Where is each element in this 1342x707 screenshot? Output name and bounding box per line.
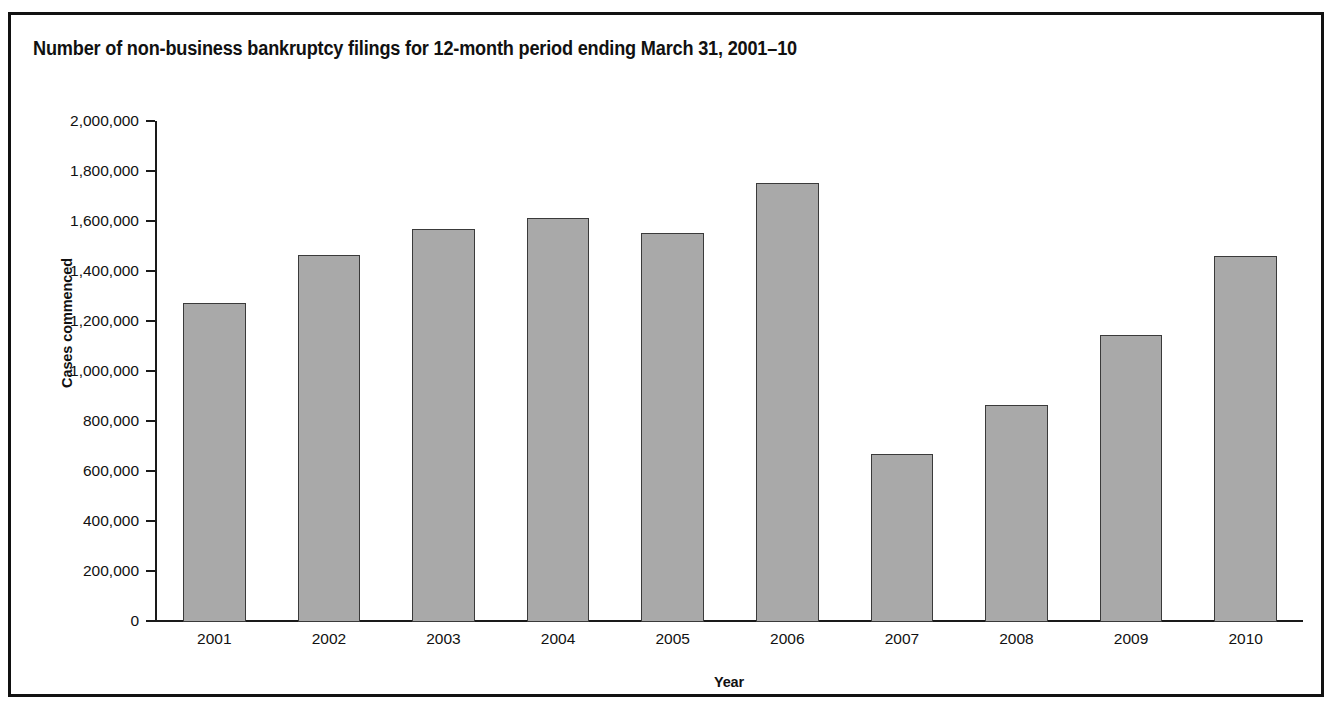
- bar-slot: [183, 121, 245, 622]
- x-axis-tick-label: 2004: [501, 630, 616, 648]
- y-axis-tick-label: 1,400,000: [19, 262, 139, 280]
- y-axis-tick-label: 1,200,000: [19, 312, 139, 330]
- y-axis-tick-label: 400,000: [19, 512, 139, 530]
- bar: [412, 229, 474, 622]
- y-axis-tick-label: 800,000: [19, 412, 139, 430]
- x-axis-tick-label: 2010: [1188, 630, 1303, 648]
- bar: [298, 255, 360, 622]
- y-axis-tick-label: 1,000,000: [19, 362, 139, 380]
- plot-area: 2,000,0001,800,0001,600,0001,400,0001,20…: [11, 15, 1327, 700]
- bar: [756, 183, 818, 622]
- bar-slot: [1100, 121, 1162, 622]
- bar-slot: [412, 121, 474, 622]
- y-axis-tick-label: 1,800,000: [19, 162, 139, 180]
- y-axis-tick: [146, 520, 155, 522]
- y-axis-tick: [146, 420, 155, 422]
- bar: [985, 405, 1047, 622]
- y-axis-tick: [146, 320, 155, 322]
- bar: [641, 233, 703, 622]
- y-axis-tick-label: 0: [19, 612, 139, 630]
- x-axis-tick-label: 2008: [959, 630, 1074, 648]
- bar-slot: [985, 121, 1047, 622]
- y-axis-tick: [146, 470, 155, 472]
- y-axis-tick-label: 200,000: [19, 562, 139, 580]
- x-axis-tick-label: 2005: [615, 630, 730, 648]
- bar: [527, 218, 589, 623]
- y-axis-tick: [146, 570, 155, 572]
- bar-slot: [298, 121, 360, 622]
- x-axis-tick-label: 2001: [157, 630, 272, 648]
- bar-slot: [871, 121, 933, 622]
- y-axis-tick: [146, 620, 155, 622]
- x-axis-tick-label: 2007: [845, 630, 960, 648]
- bar-slot: [641, 121, 703, 622]
- y-axis-tick-label: 2,000,000: [19, 112, 139, 130]
- x-axis-tick-label: 2009: [1074, 630, 1189, 648]
- bar: [871, 454, 933, 622]
- chart-figure: Number of non-business bankruptcy filing…: [8, 12, 1324, 697]
- bar: [1214, 256, 1276, 622]
- y-axis-tick: [146, 370, 155, 372]
- x-axis-title: Year: [155, 674, 1303, 690]
- y-axis-tick: [146, 120, 155, 122]
- bar: [1100, 335, 1162, 622]
- y-axis-tick: [146, 170, 155, 172]
- y-axis-title: Cases commenced: [59, 223, 75, 423]
- x-axis-tick-label: 2006: [730, 630, 845, 648]
- x-axis-tick-label: 2002: [272, 630, 387, 648]
- y-axis-tick-label: 1,600,000: [19, 212, 139, 230]
- y-axis-tick-label: 600,000: [19, 462, 139, 480]
- x-axis-tick-label: 2003: [386, 630, 501, 648]
- bar-series: [157, 121, 1303, 622]
- bar-slot: [1214, 121, 1276, 622]
- bar: [183, 303, 245, 622]
- bar-slot: [756, 121, 818, 622]
- y-axis-tick: [146, 270, 155, 272]
- y-axis-tick: [146, 220, 155, 222]
- bar-slot: [527, 121, 589, 622]
